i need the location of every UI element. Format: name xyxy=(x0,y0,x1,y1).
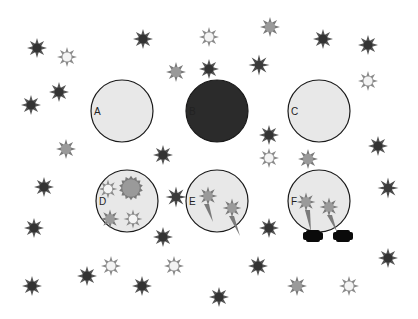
dark-star-icon xyxy=(153,227,173,247)
circle-e: E xyxy=(186,170,248,232)
dark-star-icon xyxy=(22,276,42,296)
dark-star-icon xyxy=(132,276,152,296)
circle-label: A xyxy=(94,106,101,117)
circle-label: D xyxy=(99,196,106,207)
circle-b: B xyxy=(186,80,248,142)
dark2-star-icon xyxy=(249,55,270,76)
dark-star-icon xyxy=(248,256,268,276)
diagram-canvas: ABCDEF xyxy=(0,0,418,319)
gray-star-icon xyxy=(320,198,339,217)
circle-label: C xyxy=(291,106,298,117)
gray-star-icon xyxy=(223,199,242,218)
circle-label: F xyxy=(291,196,297,207)
dark-star-icon xyxy=(209,287,229,307)
dark-star-icon xyxy=(313,29,333,49)
gray-star-icon xyxy=(297,193,316,212)
white-star-icon xyxy=(164,256,184,276)
gray-star-icon xyxy=(56,139,76,159)
circle-label: E xyxy=(189,196,196,207)
gray-star-icon xyxy=(298,149,318,169)
white-star-icon xyxy=(101,256,121,276)
dark-star-icon xyxy=(358,35,378,55)
dark-star-icon xyxy=(153,145,173,165)
white-star-icon xyxy=(339,276,359,296)
dark-star-icon xyxy=(259,218,279,238)
white-star-icon xyxy=(358,71,378,91)
white-star-icon xyxy=(199,27,219,47)
circle-label: B xyxy=(189,106,196,117)
gray-star-icon xyxy=(287,276,307,296)
white-star-icon xyxy=(57,47,77,67)
circle-a: A xyxy=(91,80,153,142)
gray-star-icon xyxy=(260,17,280,37)
gray-star-icon xyxy=(166,62,186,82)
gray-star-icon xyxy=(199,187,218,206)
dark-star-icon xyxy=(368,136,388,156)
dark-star-icon xyxy=(378,248,398,268)
dark-star-icon xyxy=(133,29,153,49)
dark2-star-icon xyxy=(378,178,399,199)
dark2-star-icon xyxy=(166,187,187,208)
dark-star-icon xyxy=(24,218,44,238)
dark-star-icon xyxy=(199,59,219,79)
background xyxy=(0,0,418,319)
dark-star-icon xyxy=(49,82,69,102)
dark-star-icon xyxy=(21,95,41,115)
dark-star-icon xyxy=(34,177,54,197)
circle-c: C xyxy=(288,80,350,142)
white-star-icon xyxy=(259,148,279,168)
circle-f: F xyxy=(288,170,350,232)
dark-star-icon xyxy=(259,125,279,145)
dark-star-icon xyxy=(77,266,97,286)
dark-star-icon xyxy=(27,38,47,58)
